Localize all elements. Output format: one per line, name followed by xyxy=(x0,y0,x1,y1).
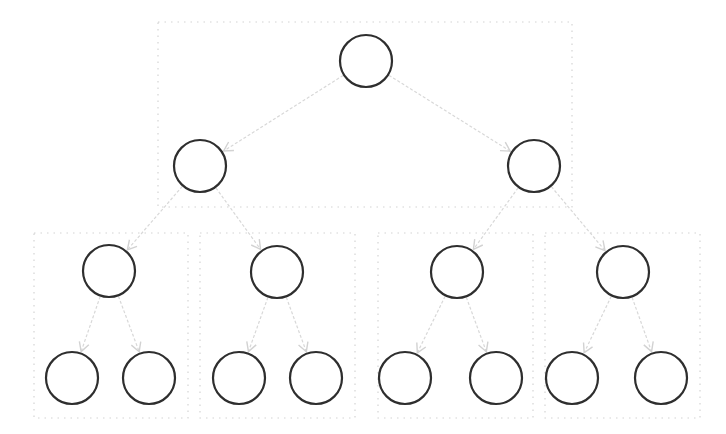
tree-node-n6 xyxy=(597,246,649,298)
edge-n0-n1 xyxy=(224,75,344,151)
tree-node-n4 xyxy=(251,246,303,298)
edge-n2-n5 xyxy=(473,188,518,250)
edge-n4-n9 xyxy=(247,297,268,351)
tree-node-n11 xyxy=(379,352,431,404)
edge-n1-n3 xyxy=(127,186,182,249)
edge-n2-n6 xyxy=(551,187,605,251)
arrowhead-icon xyxy=(251,239,260,249)
arrowhead-icon xyxy=(299,342,308,352)
edge-n5-n12 xyxy=(466,297,488,351)
arrowhead-icon xyxy=(479,342,488,352)
tree-node-n8 xyxy=(123,352,175,404)
tree-node-n9 xyxy=(213,352,265,404)
edge-n0-n2 xyxy=(389,75,510,151)
arrowhead-icon xyxy=(644,341,653,351)
tree-node-n1 xyxy=(174,140,226,192)
arrowhead-icon xyxy=(473,239,482,249)
edges xyxy=(79,75,653,353)
tree-node-n13 xyxy=(546,352,598,404)
arrowhead-icon xyxy=(79,341,88,351)
edge-n1-n4 xyxy=(216,188,261,250)
tree-node-n12 xyxy=(470,352,522,404)
arrowhead-icon xyxy=(247,341,256,351)
edge-n6-n13 xyxy=(584,296,612,352)
edge-n3-n7 xyxy=(79,297,100,352)
arrowhead-icon xyxy=(224,142,234,151)
tree-diagram xyxy=(0,0,726,434)
tree-node-n7 xyxy=(46,352,98,404)
tree-node-n3 xyxy=(83,245,135,297)
tree-node-n2 xyxy=(508,140,560,192)
edge-n6-n14 xyxy=(632,297,653,351)
arrowhead-icon xyxy=(500,142,510,151)
edge-n3-n8 xyxy=(118,296,140,351)
tree-node-n14 xyxy=(635,352,687,404)
tree-node-n10 xyxy=(290,352,342,404)
tree-node-n5 xyxy=(431,246,483,298)
edge-n5-n11 xyxy=(417,296,445,353)
tree-node-n0 xyxy=(340,35,392,87)
edge-n4-n10 xyxy=(286,297,308,351)
